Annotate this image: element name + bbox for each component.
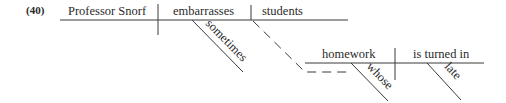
example-number: (40) (26, 4, 45, 17)
main-object: students (262, 4, 303, 18)
main-subject: Professor Snorf (68, 4, 147, 18)
subject-modifier-whose: whose (364, 59, 397, 92)
relative-verb: is turned in (413, 47, 470, 61)
main-verb: embarrasses (173, 4, 234, 18)
relative-subject: homework (322, 47, 376, 61)
sentence-diagram: (40) Professor Snorf embarrasses student… (0, 0, 506, 103)
verb-modifier-sometimes: sometimes (203, 16, 251, 64)
